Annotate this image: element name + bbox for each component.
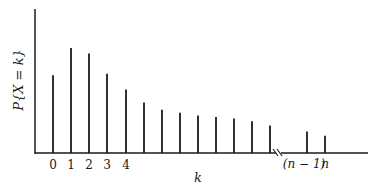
- y-axis-title: P{X = k}: [11, 49, 26, 112]
- x-tick-label: n: [321, 157, 329, 171]
- stems: [53, 48, 325, 153]
- stem-chart: 0 1 2 3 4 (n − 1) n k P{X = k}: [0, 0, 378, 191]
- x-tick-label: 4: [122, 158, 130, 172]
- x-tick-label: (n − 1): [283, 157, 326, 171]
- x-tick-label: 1: [67, 158, 75, 172]
- x-tick-label: 2: [85, 158, 93, 172]
- x-axis-title: k: [194, 170, 202, 185]
- x-tick-label: 3: [103, 158, 111, 172]
- x-tick-label: 0: [49, 158, 57, 172]
